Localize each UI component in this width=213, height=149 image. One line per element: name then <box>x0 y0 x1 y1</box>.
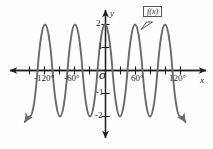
curve-end-left <box>25 117 30 123</box>
graph-figure: x y -120° -60° 60° 120° 2 1 -1 -2 O f(x) <box>0 0 213 149</box>
curve-end-right <box>180 117 185 123</box>
x-tick-label-120: 120° <box>169 74 186 83</box>
x-tick-label-minus60: -60° <box>64 74 80 83</box>
x-tick-label-minus120: -120° <box>34 74 54 83</box>
y-tick-label-1: 1 <box>98 42 103 51</box>
y-tick-label-minus2: -2 <box>95 111 103 120</box>
origin-label: O <box>99 72 106 81</box>
y-axis-label: y <box>110 9 114 18</box>
x-axis-label: x <box>200 76 204 85</box>
y-tick-label-minus1: -1 <box>96 88 104 97</box>
x-tick-label-60: 60° <box>131 74 144 83</box>
y-tick-label-2: 2 <box>96 19 101 28</box>
callout-pointer <box>141 22 153 30</box>
curve-label-callout: f(x) <box>143 6 162 17</box>
